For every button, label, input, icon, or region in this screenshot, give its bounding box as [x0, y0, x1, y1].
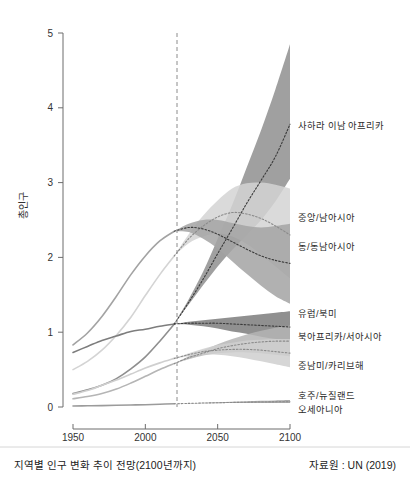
x-tick-label: 2050	[207, 432, 230, 443]
series-label-oceania-line2: 오세아니아	[298, 405, 343, 415]
x-tick-label: 1950	[62, 432, 85, 443]
series-label-oceania-line1: 호주/뉴질랜드	[298, 390, 355, 401]
y-axis-title: 총인구	[18, 192, 29, 219]
chart-canvas: 012345 총인구 1950200020502100 사하라 이남 아프리카 …	[0, 0, 410, 495]
y-tick-label: 2	[47, 252, 53, 263]
caption-source: 자료원 : UN (2019)	[309, 459, 396, 471]
series-label-central-south-asia: 중앙/남아시아	[298, 212, 355, 223]
x-axis-line	[73, 424, 290, 429]
series-label-latin-america: 중남미/카리브해	[298, 360, 364, 371]
series-label-east-southeast-asia: 동/동남아시아	[298, 242, 355, 252]
caption-title: 지역별 인구 변화 추이 전망(2100년까지)	[14, 459, 196, 471]
historical-lines	[73, 231, 174, 406]
y-tick-label: 4	[47, 102, 53, 113]
population-projection-figure: 012345 총인구 1950200020502100 사하라 이남 아프리카 …	[0, 0, 410, 495]
series-label-europe-north-america: 유럽/북미	[298, 309, 337, 319]
y-tick-label: 3	[47, 177, 53, 188]
y-tick-label: 1	[47, 327, 53, 338]
series-label-africa: 사하라 이남 아프리카	[298, 121, 384, 131]
x-tick-label: 2100	[279, 432, 302, 443]
x-tick-label: 2000	[134, 432, 157, 443]
y-tick-label: 5	[47, 28, 53, 39]
y-axis-ticks: 012345	[47, 28, 63, 413]
x-axis-ticks: 1950200020502100	[62, 424, 302, 443]
y-tick-label: 0	[47, 402, 53, 413]
series-label-north-africa-west-asia: 북아프리카/서아시아	[298, 332, 382, 342]
